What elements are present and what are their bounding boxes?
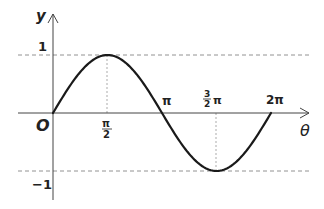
tick-label-three-half-den: 2 bbox=[204, 99, 210, 109]
tick-label-three-half-pi: π bbox=[213, 94, 222, 107]
tick-label-pi-half-num: π bbox=[102, 118, 110, 129]
y-axis-label: y bbox=[36, 7, 47, 25]
tick-label-three-half-num: 3 bbox=[204, 89, 210, 99]
y-tick-label-neg1: −1 bbox=[32, 177, 52, 192]
tick-label-pi: π bbox=[162, 94, 172, 108]
tick-label-pi-half-den: 2 bbox=[103, 129, 110, 140]
sine-graph: y θ O 1 −1 π 2 π 3 2 π 2π bbox=[0, 0, 324, 209]
origin-label: O bbox=[36, 116, 50, 135]
tick-label-two-pi: 2π bbox=[266, 93, 284, 107]
theta-label: θ bbox=[300, 121, 310, 140]
y-tick-label-1: 1 bbox=[38, 39, 47, 54]
